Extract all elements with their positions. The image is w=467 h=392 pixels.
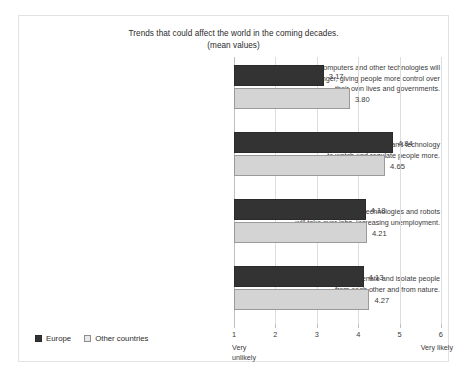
bar-europe-2[interactable] — [234, 132, 393, 153]
tick-mark-5 — [400, 324, 401, 328]
tick-label-5: 5 — [398, 330, 402, 339]
legend-label-other-countries: Other countries — [95, 334, 148, 343]
bar-row-other-1: 3.80 — [234, 88, 467, 109]
scale-anchor-low-line1: Very — [232, 343, 256, 353]
tick-mark-4 — [358, 324, 359, 328]
tick-mark-2 — [275, 324, 276, 328]
chart-legend: Europe Other countries — [35, 334, 148, 343]
bar-row-europe-2: 4.84 — [234, 132, 467, 153]
bar-europe-3[interactable] — [234, 199, 366, 220]
bar-group-2: 4.84 4.65 — [234, 132, 467, 176]
tick-label-3: 3 — [315, 330, 319, 339]
tick-mark-3 — [317, 324, 318, 328]
plot-area: 3.17 3.80 4.84 4.65 4.18 — [234, 57, 441, 324]
x-axis: 1 2 3 4 5 6 Very unlikely Very likely — [234, 324, 441, 364]
tick-label-2: 2 — [273, 330, 277, 339]
tick-label-1: 1 — [232, 330, 236, 339]
bar-row-europe-3: 4.18 — [234, 199, 467, 220]
bar-other-3[interactable] — [234, 222, 367, 243]
bar-other-1[interactable] — [234, 88, 350, 109]
scale-anchor-low: Very unlikely — [232, 343, 256, 362]
bar-group-4: 4.13 4.27 — [234, 266, 467, 310]
bar-value-europe-3: 4.18 — [366, 205, 386, 214]
chart-container: Trends that could affect the world in th… — [18, 15, 449, 362]
scale-anchor-low-line2: unlikely — [232, 353, 256, 363]
legend-swatch-icon-europe — [35, 335, 42, 342]
bar-row-europe-1: 3.17 — [234, 65, 467, 86]
bar-value-other-2: 4.65 — [385, 161, 405, 170]
chart-title-main: Trends that could affect the world in th… — [129, 29, 339, 38]
legend-label-europe: Europe — [46, 334, 71, 343]
bar-row-other-3: 4.21 — [234, 222, 467, 243]
chart-subtitle: (mean values) — [19, 40, 448, 52]
bar-group-1: 3.17 3.80 — [234, 65, 467, 109]
tick-label-6: 6 — [439, 330, 443, 339]
legend-item-europe[interactable]: Europe — [35, 334, 71, 343]
tick-mark-1 — [234, 324, 235, 328]
bar-other-2[interactable] — [234, 155, 385, 176]
bar-value-other-3: 4.21 — [367, 228, 387, 237]
bar-value-other-1: 3.80 — [350, 94, 370, 103]
legend-swatch-icon-other-countries — [84, 335, 91, 342]
bar-value-europe-4: 4.13 — [364, 272, 384, 281]
bar-europe-4[interactable] — [234, 266, 364, 287]
bar-europe-1[interactable] — [234, 65, 324, 86]
bar-row-europe-4: 4.13 — [234, 266, 467, 287]
bar-value-europe-2: 4.84 — [393, 138, 413, 147]
bar-value-other-4: 4.27 — [369, 295, 389, 304]
chart-title: Trends that could affect the world in th… — [19, 28, 448, 52]
bar-value-europe-1: 3.17 — [324, 71, 344, 80]
tick-label-4: 4 — [356, 330, 360, 339]
scale-anchor-high: Very likely — [421, 343, 453, 353]
tick-mark-6 — [441, 324, 442, 328]
legend-item-other-countries[interactable]: Other countries — [84, 334, 148, 343]
bar-row-other-4: 4.27 — [234, 289, 467, 310]
bar-group-3: 4.18 4.21 — [234, 199, 467, 243]
bar-row-other-2: 4.65 — [234, 155, 467, 176]
bar-other-4[interactable] — [234, 289, 369, 310]
